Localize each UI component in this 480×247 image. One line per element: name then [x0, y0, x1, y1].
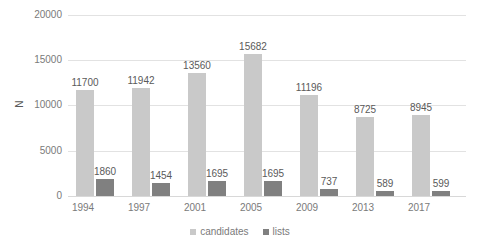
x-axis-tick-label: 2017: [389, 202, 449, 213]
bar-value-label-lists-1994: 1860: [83, 167, 127, 177]
bar-group: 119421454: [132, 15, 170, 196]
bar-group: 8945599: [412, 15, 450, 196]
bar-value-label-candidates-1994: 11700: [63, 78, 107, 88]
bar-value-label-lists-2001: 1695: [195, 169, 239, 179]
bar-lists-2005[interactable]: [264, 181, 282, 196]
legend-label: lists: [273, 227, 290, 237]
bar-value-label-lists-2013: 589: [363, 179, 407, 189]
bar-lists-2009[interactable]: [320, 189, 338, 196]
legend-item-lists[interactable]: lists: [263, 227, 290, 237]
y-axis-tick-label: 20000: [0, 10, 62, 20]
bar-group: 135601695: [188, 15, 226, 196]
bar-lists-2017[interactable]: [432, 191, 450, 196]
bar-candidates-1994[interactable]: [76, 90, 94, 196]
x-axis-tick-label: 2005: [221, 202, 281, 213]
bar-value-label-lists-2009: 737: [307, 177, 351, 187]
y-axis-tick-label: 10000: [0, 100, 62, 110]
x-axis-tick-label: 2009: [277, 202, 337, 213]
bar-value-label-candidates-2009: 11196: [287, 83, 331, 93]
legend-swatch-icon: [263, 229, 269, 235]
bar-value-label-candidates-2001: 13560: [175, 61, 219, 71]
x-axis-tick-label: 2001: [165, 202, 225, 213]
bar-value-label-lists-2005: 1695: [251, 169, 295, 179]
bar-lists-2001[interactable]: [208, 181, 226, 196]
bar-value-label-lists-2017: 599: [419, 179, 463, 189]
x-axis-tick-label: 1994: [53, 202, 113, 213]
bar-chart: N 20000 15000 10000 5000 0 1170018601194…: [0, 0, 480, 247]
bar-value-label-candidates-2013: 8725: [343, 105, 387, 115]
bar-lists-2013[interactable]: [376, 191, 394, 196]
plot-area: 1170018601194214541356016951568216951119…: [68, 15, 466, 196]
bar-group: 156821695: [244, 15, 282, 196]
chart-legend: candidates lists: [0, 227, 480, 237]
bar-lists-1997[interactable]: [152, 183, 170, 196]
bar-group: 8725589: [356, 15, 394, 196]
bar-value-label-candidates-1997: 11942: [119, 76, 163, 86]
gridline-baseline-0: [68, 196, 466, 197]
bar-group: 117001860: [76, 15, 114, 196]
legend-label: candidates: [200, 227, 248, 237]
x-axis-tick-label: 1997: [109, 202, 169, 213]
legend-item-candidates[interactable]: candidates: [190, 227, 248, 237]
bar-lists-1994[interactable]: [96, 179, 114, 196]
y-axis-tick-label: 0: [0, 191, 62, 201]
bar-value-label-lists-1997: 1454: [139, 171, 183, 181]
legend-swatch-icon: [190, 229, 196, 235]
y-axis-tick-label: 15000: [0, 55, 62, 65]
bar-value-label-candidates-2017: 8945: [399, 103, 443, 113]
y-axis-tick-label: 5000: [0, 146, 62, 156]
bar-group: 11196737: [300, 15, 338, 196]
x-axis-tick-label: 2013: [333, 202, 393, 213]
bar-value-label-candidates-2005: 15682: [231, 42, 275, 52]
